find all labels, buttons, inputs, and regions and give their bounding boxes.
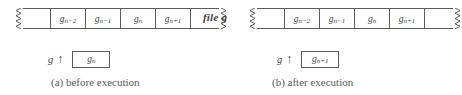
pointer-value-box: gn+1	[301, 51, 339, 68]
pointer-value-box: gn	[72, 51, 110, 68]
cell-subscript: n−1	[100, 17, 112, 25]
up-arrow-icon: ↑	[57, 53, 63, 65]
buffer-cell-pad-left	[23, 9, 51, 28]
buffer-cell-gn: gn	[355, 9, 390, 28]
cell-subscript: n	[139, 17, 143, 25]
up-arrow-icon: ↑	[286, 53, 292, 65]
buffer-cells-before: gn−2 gn−1 gn gn+1	[23, 8, 219, 29]
pointer-value-subscript: n+1	[317, 57, 329, 65]
buffer-strip-before: gn−2 gn−1 gn gn+1	[14, 8, 228, 29]
pointer-value-subscript: n	[92, 57, 96, 65]
cell-subscript: n	[373, 17, 377, 25]
pointer-name-label: g	[277, 54, 282, 65]
pointer-variable-after: g ↑ gn+1	[277, 50, 339, 68]
cell-subscript: n+1	[170, 17, 182, 25]
buffer-cell-pad-left	[257, 9, 285, 28]
file-g-label: file g	[203, 11, 227, 23]
buffer-cell-gn-minus-1: gn−1	[86, 9, 121, 28]
pointer-variable-before: g ↑ gn	[48, 50, 110, 68]
buffer-cell-gn-minus-2: gn−2	[285, 9, 320, 28]
torn-edge-zigzag-icon-right-b	[453, 8, 462, 29]
buffer-cell-pad-right	[425, 9, 453, 28]
torn-edge-zigzag-icon-left-a	[14, 8, 23, 29]
buffer-cell-gn: gn	[121, 9, 156, 28]
buffer-strip-after: gn−2 gn−1 gn gn+1	[248, 8, 462, 29]
torn-edge-zigzag-icon-left-b	[248, 8, 257, 29]
buffer-cell-gn-plus-1: gn+1	[390, 9, 425, 28]
cell-subscript: n−2	[299, 17, 311, 25]
caption-before-execution: (a) before execution	[51, 76, 140, 88]
buffer-cells-after: gn−2 gn−1 gn gn+1	[257, 8, 453, 29]
buffer-cell-gn-minus-2: gn−2	[51, 9, 86, 28]
buffer-cell-gn-plus-1: gn+1	[156, 9, 191, 28]
buffer-cell-gn-minus-1: gn−1	[320, 9, 355, 28]
cell-subscript: n−1	[334, 17, 346, 25]
caption-after-execution: (b) after execution	[272, 76, 353, 88]
pointer-name-label: g	[48, 54, 53, 65]
cell-subscript: n−2	[65, 17, 77, 25]
cell-subscript: n+1	[404, 17, 416, 25]
